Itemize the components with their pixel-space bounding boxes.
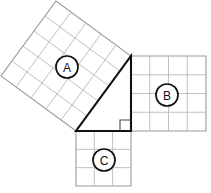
label-text-a: A: [63, 61, 71, 75]
diagram-canvas: ABC: [0, 0, 211, 193]
label-text-c: C: [100, 154, 109, 168]
pythagorean-diagram: ABC: [0, 0, 211, 193]
label-text-b: B: [163, 89, 171, 103]
